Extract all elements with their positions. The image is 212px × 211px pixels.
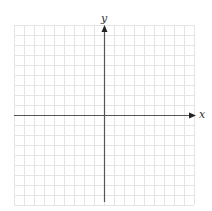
- coordinate-plane: [0, 0, 212, 211]
- y-axis-label: y: [101, 13, 107, 24]
- y-axis-arrow-icon: [102, 25, 108, 32]
- x-axis-label: x: [199, 109, 205, 120]
